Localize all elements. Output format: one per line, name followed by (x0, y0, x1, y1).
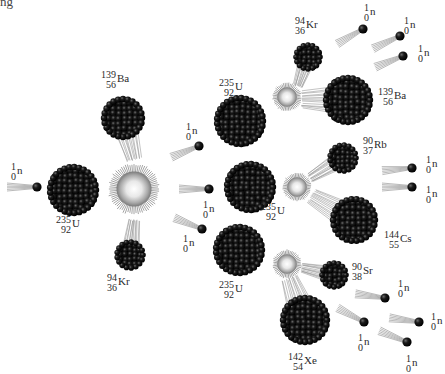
isotope-numbers: 14455 (384, 230, 399, 250)
label-neutron-n2c: 10n (418, 44, 430, 64)
element-symbol: n (437, 315, 443, 325)
isotope-numbers: 9436 (107, 273, 117, 293)
neutron-icon (173, 214, 207, 234)
element-symbol: Kr (118, 276, 130, 286)
element-symbol: n (432, 188, 438, 198)
isotope-numbers: 23592 (261, 202, 276, 222)
fission-flash-icon (272, 83, 301, 111)
label-neutron-n0: 10n (11, 162, 23, 182)
isotope-numbers: 13956 (101, 70, 116, 90)
element-symbol: n (209, 203, 215, 213)
isotope-numbers: 23592 (56, 215, 71, 235)
nucleus-u2-icon (214, 95, 266, 147)
fission-flash-icon (283, 173, 312, 201)
label-cs: 14455Cs (384, 230, 412, 250)
isotope-numbers: 13956 (378, 87, 393, 107)
isotope-numbers: 10 (183, 234, 188, 254)
isotope-numbers: 10 (426, 155, 431, 175)
neutron-icon (378, 327, 412, 347)
label-neutron-n1a: 10n (186, 122, 198, 142)
atomic-number: 56 (378, 97, 393, 107)
label-neutron-n2a: 10n (364, 3, 376, 23)
element-symbol: U (72, 218, 80, 228)
element-symbol: n (17, 165, 23, 175)
atomic-number: 55 (384, 240, 399, 250)
label-xe: 14254Xe (288, 352, 317, 372)
atomic-number: 0 (364, 13, 369, 23)
atomic-number: 0 (183, 244, 188, 254)
atomic-number: 36 (107, 283, 117, 293)
label-kr1: 9436Kr (107, 273, 130, 293)
neutron-icon (382, 182, 417, 191)
atomic-number: 54 (288, 362, 303, 372)
isotope-numbers: 10 (418, 44, 423, 64)
label-neutron-n4c: 10n (431, 312, 443, 332)
label-u4: 23592U (219, 280, 243, 300)
element-symbol: Xe (304, 355, 317, 365)
element-symbol: n (424, 47, 430, 57)
element-symbol: n (189, 237, 195, 247)
label-ba2: 13956Ba (378, 87, 406, 107)
element-symbol: U (277, 205, 285, 215)
label-neutron-n1b: 10n (203, 200, 215, 220)
isotope-numbers: 10 (203, 200, 208, 220)
nucleus-kr1-icon (114, 239, 145, 270)
element-symbol: U (235, 81, 243, 91)
atomic-number: 0 (418, 54, 423, 64)
label-neutron-n3b: 10n (426, 185, 438, 205)
element-symbol: n (410, 19, 416, 29)
isotope-numbers: 10 (426, 185, 431, 205)
element-symbol: n (364, 336, 370, 346)
atomic-number: 0 (186, 132, 191, 142)
atomic-number: 0 (203, 210, 208, 220)
element-symbol: Ba (394, 90, 406, 100)
nucleus-cs-icon (330, 196, 378, 244)
nucleus-ba1-icon (101, 96, 145, 140)
label-neutron-n4d: 10n (406, 354, 418, 374)
isotope-numbers: 9436 (295, 16, 305, 36)
atomic-number: 92 (219, 290, 234, 300)
isotope-numbers: 10 (358, 333, 363, 353)
atomic-number: 92 (261, 212, 276, 222)
atomic-number: 0 (431, 322, 436, 332)
neutron-icon (335, 24, 368, 47)
element-symbol: n (432, 158, 438, 168)
atomic-number: 92 (219, 88, 234, 98)
neutron-icon (355, 290, 390, 303)
element-symbol: Cs (400, 233, 412, 243)
label-neutron-n1c: 10n (183, 234, 195, 254)
isotope-numbers: 10 (11, 162, 16, 182)
atomic-number: 56 (101, 80, 116, 90)
fission-flash-icon (109, 164, 160, 214)
label-neutron-n4a: 10n (398, 279, 410, 299)
nucleus-ba2-icon (323, 75, 373, 125)
isotope-numbers: 9038 (352, 262, 362, 282)
nucleus-kr2-icon (293, 42, 323, 72)
atomic-number: 0 (426, 165, 431, 175)
nucleus-u1-icon (47, 164, 99, 216)
neutron-icon (7, 182, 42, 191)
label-neutron-n3a: 10n (426, 155, 438, 175)
atomic-number: 36 (295, 26, 305, 36)
fission-flash-icon (273, 249, 302, 278)
isotope-numbers: 10 (431, 312, 436, 332)
element-symbol: Rb (374, 139, 387, 149)
neutron-icon (170, 141, 204, 161)
nucleus-rb-icon (327, 142, 358, 173)
atomic-number: 0 (11, 172, 16, 182)
label-kr2: 9436Kr (295, 16, 318, 36)
neutron-icon (374, 51, 408, 71)
element-symbol: U (235, 283, 243, 293)
neutron-icon (382, 163, 417, 174)
element-symbol: Kr (306, 19, 318, 29)
label-neutron-n4b: 10n (358, 333, 370, 353)
neutron-icon (389, 314, 424, 327)
isotope-numbers: 14254 (288, 352, 303, 372)
isotope-numbers: 10 (186, 122, 191, 142)
atomic-number: 0 (404, 26, 409, 36)
label-sr: 9038Sr (352, 262, 373, 282)
neutron-icon (179, 184, 214, 193)
atomic-number: 37 (363, 146, 373, 156)
atomic-number: 38 (352, 272, 362, 282)
